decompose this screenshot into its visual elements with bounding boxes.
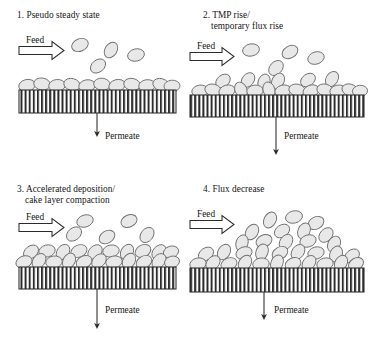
panel-accelerated-deposition: 3. Accelerated deposition/cake layer com…	[0, 174, 186, 348]
suspended-particles	[64, 212, 157, 247]
permeate-label: Permeate	[274, 305, 309, 315]
suspended-particles	[70, 36, 146, 76]
panel-4-diagram: Feed	[186, 174, 372, 348]
membrane	[190, 268, 364, 292]
feed-label: Feed	[197, 41, 215, 51]
permeate-label: Permeate	[105, 305, 140, 315]
panel-flux-decrease: 4. Flux decrease Feed	[186, 174, 372, 348]
panel-3-diagram: Feed	[0, 174, 186, 348]
feed-label: Feed	[26, 35, 44, 45]
panel-pseudo-steady-state: 1. Pseudo steady state Feed	[0, 0, 186, 174]
panel-1-diagram: Feed	[0, 0, 186, 174]
feed-label: Feed	[197, 209, 215, 219]
membrane-fouling-figure: 1. Pseudo steady state Feed	[0, 0, 373, 349]
suspended-particles	[261, 209, 326, 232]
membrane	[19, 90, 176, 113]
permeate-label: Permeate	[284, 131, 319, 141]
membrane	[19, 267, 176, 289]
feed-label: Feed	[26, 212, 44, 222]
panel-tmp-rise: 2. TMP rise/temporary flux rise Feed	[186, 0, 372, 174]
membrane	[190, 95, 364, 117]
permeate-label: Permeate	[105, 131, 140, 141]
panel-2-diagram: Feed	[186, 0, 372, 174]
